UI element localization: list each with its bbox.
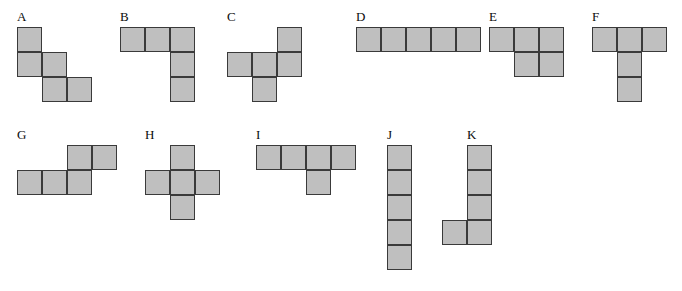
pentomino-figure-canvas: ABCDEFGHIJK (0, 0, 682, 291)
shape-grid-a (17, 27, 92, 102)
shape-label-f: F (592, 10, 599, 23)
shape-cell (170, 170, 195, 195)
shape-cell (514, 27, 539, 52)
shape-cell (67, 77, 92, 102)
shape-cell (252, 52, 277, 77)
shape-cell (467, 195, 492, 220)
shape-label-i: I (256, 128, 260, 141)
shape-cell (92, 145, 117, 170)
shape-cell (387, 145, 412, 170)
shape-cell (42, 52, 67, 77)
shape-cell (539, 27, 564, 52)
shape-label-g: G (17, 128, 26, 141)
shape-cell (17, 170, 42, 195)
shape-cell (170, 195, 195, 220)
shape-cell (442, 220, 467, 245)
shape-cell (170, 145, 195, 170)
shape-cell (277, 27, 302, 52)
shape-cell (456, 27, 481, 52)
shape-cell (431, 27, 456, 52)
shape-label-a: A (17, 10, 26, 23)
shape-cell (17, 27, 42, 52)
shape-grid-g (17, 145, 117, 195)
shape-cell (617, 77, 642, 102)
shape-label-j: J (387, 128, 392, 141)
shape-cell (356, 27, 381, 52)
shape-cell (387, 195, 412, 220)
shape-cell (256, 145, 281, 170)
shape-cell (170, 27, 195, 52)
shape-cell (145, 27, 170, 52)
shape-grid-d (356, 27, 481, 52)
shape-cell (387, 170, 412, 195)
shape-grid-h (145, 145, 220, 220)
shape-cell (170, 77, 195, 102)
shape-cell (227, 52, 252, 77)
shape-label-c: C (227, 10, 236, 23)
shape-grid-k (442, 145, 492, 245)
shape-label-e: E (489, 10, 497, 23)
shape-cell (42, 170, 67, 195)
shape-grid-e (489, 27, 564, 77)
shape-label-k: K (467, 128, 476, 141)
shape-grid-c (227, 27, 302, 102)
shape-label-h: H (145, 128, 154, 141)
shape-cell (592, 27, 617, 52)
shape-cell (467, 220, 492, 245)
shape-cell (642, 27, 667, 52)
shape-label-d: D (356, 10, 365, 23)
shape-grid-i (256, 145, 356, 195)
shape-cell (467, 170, 492, 195)
shape-cell (195, 170, 220, 195)
shape-cell (406, 27, 431, 52)
shape-cell (67, 170, 92, 195)
shape-grid-b (120, 27, 195, 102)
shape-cell (387, 220, 412, 245)
shape-cell (381, 27, 406, 52)
shape-cell (281, 145, 306, 170)
shape-cell (331, 145, 356, 170)
shape-cell (42, 77, 67, 102)
shape-cell (120, 27, 145, 52)
shape-cell (387, 245, 412, 270)
shape-label-b: B (120, 10, 129, 23)
shape-cell (617, 27, 642, 52)
shape-cell (170, 52, 195, 77)
shape-cell (617, 52, 642, 77)
shape-cell (306, 170, 331, 195)
shape-cell (306, 145, 331, 170)
shape-cell (514, 52, 539, 77)
shape-cell (539, 52, 564, 77)
shape-cell (67, 145, 92, 170)
shape-cell (467, 145, 492, 170)
shape-grid-j (387, 145, 412, 270)
shape-cell (145, 170, 170, 195)
shape-cell (489, 27, 514, 52)
shape-cell (252, 77, 277, 102)
shape-grid-f (592, 27, 667, 102)
shape-cell (277, 52, 302, 77)
shape-cell (17, 52, 42, 77)
